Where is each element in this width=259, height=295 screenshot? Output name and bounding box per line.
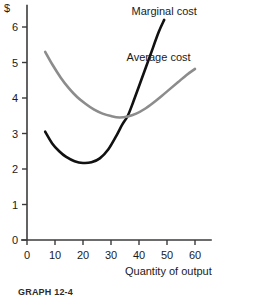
y-tick-label-2: 2	[12, 163, 18, 175]
chart-canvas: 01234560102030405060$Quantity of outputM…	[0, 0, 259, 295]
x-tick-label-0: 0	[24, 249, 30, 261]
curve-marginal-cost	[45, 20, 164, 163]
series-label-marginal-cost: Marginal cost	[131, 5, 196, 17]
series-label-average-cost: Average cost	[127, 51, 191, 63]
y-tick-label-5: 5	[12, 57, 18, 69]
x-axis-title: Quantity of output	[125, 265, 212, 277]
y-axis-title: $	[4, 2, 10, 14]
y-tick-label-3: 3	[12, 128, 18, 140]
y-tick-label-4: 4	[12, 92, 18, 104]
x-tick-label-50: 50	[161, 249, 173, 261]
y-tick-label-6: 6	[12, 21, 18, 33]
x-tick-label-20: 20	[77, 249, 89, 261]
cost-curves-chart: 01234560102030405060$Quantity of outputM…	[0, 0, 259, 295]
x-tick-label-10: 10	[49, 249, 61, 261]
x-tick-label-40: 40	[133, 249, 145, 261]
y-tick-label-0: 0	[12, 234, 18, 246]
x-tick-label-30: 30	[105, 249, 117, 261]
figure-caption: GRAPH 12-4	[18, 287, 73, 295]
x-tick-label-60: 60	[189, 249, 201, 261]
y-tick-label-1: 1	[12, 199, 18, 211]
